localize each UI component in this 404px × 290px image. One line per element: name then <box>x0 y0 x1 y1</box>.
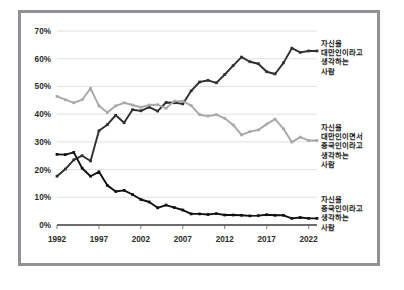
legend-label-line: 자신을 <box>321 195 363 204</box>
series-marker <box>72 151 75 154</box>
series-marker <box>156 110 159 113</box>
series-marker <box>215 113 218 116</box>
y-axis-tick-label: 30% <box>35 138 52 147</box>
series-marker <box>148 201 151 204</box>
series-marker <box>56 153 59 156</box>
chart-figure-frame: 0%10%20%30%40%50%60%70%19921997200220072… <box>18 10 380 266</box>
series-marker <box>140 106 143 109</box>
series-marker <box>106 184 109 187</box>
series-marker <box>165 204 168 207</box>
series-marker <box>190 104 193 107</box>
x-axis-tick-label: 2017 <box>258 235 277 244</box>
series-marker <box>131 104 134 107</box>
y-axis-tick-label: 0% <box>39 221 52 230</box>
series-marker <box>81 98 84 101</box>
series-marker <box>249 130 252 133</box>
series-marker <box>223 214 226 217</box>
legend-label-line: 자신을 <box>321 123 363 132</box>
legend-label-line: 중국인이라고 <box>321 141 363 150</box>
series-marker <box>299 51 302 54</box>
series-marker <box>198 213 201 216</box>
series-marker <box>274 73 277 76</box>
series-marker <box>190 213 193 216</box>
series-marker <box>316 217 319 220</box>
series-marker <box>198 113 201 116</box>
y-axis-tick-label: 10% <box>35 193 52 202</box>
series-marker <box>257 129 260 132</box>
y-axis-tick-label: 50% <box>35 82 52 91</box>
series-marker <box>215 212 218 215</box>
series-marker <box>81 167 84 170</box>
series-marker <box>156 206 159 209</box>
series-marker <box>223 73 226 76</box>
series-marker <box>181 100 184 103</box>
legend-label-line: 생각하는 <box>321 213 363 222</box>
series-marker <box>282 62 285 65</box>
series-marker <box>64 98 67 101</box>
legend-label-line: 자신을 <box>321 39 363 48</box>
series-marker <box>64 168 67 171</box>
series-marker <box>207 115 210 118</box>
legend-label-line: 사람 <box>321 67 363 76</box>
legend-item-chinese: 자신을중국인이라고생각하는사람 <box>321 195 363 232</box>
legend-label-line: 사람 <box>321 160 363 169</box>
series-marker <box>307 217 310 220</box>
series-marker <box>223 117 226 120</box>
series-marker <box>265 123 268 126</box>
series-marker <box>140 198 143 201</box>
series-marker <box>215 81 218 84</box>
series-marker <box>240 134 243 137</box>
series-marker <box>181 209 184 212</box>
series-line-2 <box>57 152 317 218</box>
series-marker <box>114 114 117 117</box>
series-marker <box>81 154 84 157</box>
series-marker <box>265 70 268 73</box>
series-marker <box>316 50 319 53</box>
series-marker <box>207 79 210 82</box>
series-marker <box>114 190 117 193</box>
series-marker <box>257 214 260 217</box>
x-axis-tick-label: 2012 <box>216 235 235 244</box>
series-marker <box>240 214 243 217</box>
series-marker <box>274 118 277 121</box>
series-marker <box>173 206 176 209</box>
series-marker <box>56 175 59 178</box>
series-marker <box>282 214 285 217</box>
series-marker <box>148 104 151 107</box>
y-axis-tick-label: 60% <box>35 55 52 64</box>
series-marker <box>198 81 201 84</box>
series-marker <box>173 100 176 103</box>
series-marker <box>265 213 268 216</box>
legend-item-taiwanese: 자신을대만인이라고생각하는사람 <box>321 39 363 76</box>
series-marker <box>140 109 143 112</box>
x-axis-tick-label: 2007 <box>174 235 193 244</box>
series-marker <box>98 129 101 132</box>
legend-label-line: 대만인이라고 <box>321 48 363 57</box>
series-marker <box>299 136 302 139</box>
series-marker <box>165 107 168 110</box>
series-marker <box>98 104 101 107</box>
x-axis-tick-label: 2002 <box>132 235 151 244</box>
series-marker <box>123 189 126 192</box>
series-marker <box>72 159 75 162</box>
x-axis-tick-label: 2022 <box>300 235 319 244</box>
series-marker <box>106 111 109 114</box>
series-marker <box>156 103 159 106</box>
series-marker <box>89 87 92 90</box>
legend-label-line: 사람 <box>321 223 363 232</box>
series-marker <box>240 56 243 59</box>
series-marker <box>282 127 285 130</box>
series-marker <box>274 214 277 217</box>
series-marker <box>56 95 59 98</box>
series-marker <box>307 50 310 53</box>
series-marker <box>307 139 310 142</box>
series-marker <box>131 108 134 111</box>
legend-label-line: 생각하는 <box>321 151 363 160</box>
legend-label-line: 중국인이라고 <box>321 204 363 213</box>
series-marker <box>190 90 193 93</box>
series-marker <box>165 101 168 104</box>
series-marker <box>106 123 109 126</box>
series-marker <box>89 160 92 163</box>
legend-item-both: 자신을대만인이면서중국인이라고생각하는사람 <box>321 123 363 169</box>
series-marker <box>290 141 293 144</box>
